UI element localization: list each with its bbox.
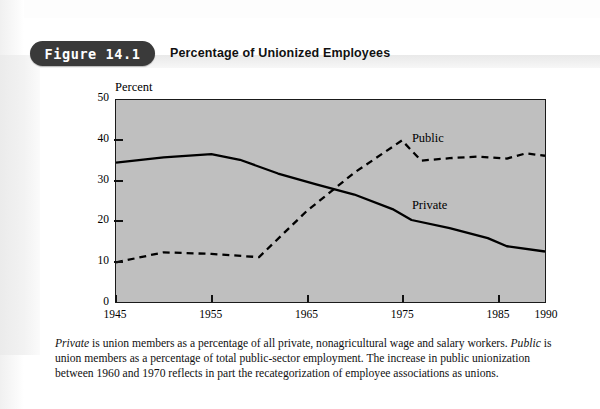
series-label-private: Private bbox=[412, 198, 447, 213]
x-tick-label: 1975 bbox=[382, 308, 422, 320]
y-axis-title: Percent bbox=[115, 80, 152, 95]
x-tick-label: 1985 bbox=[478, 308, 518, 320]
plot-area bbox=[115, 99, 546, 303]
y-tick-label: 50 bbox=[85, 91, 109, 103]
x-tick-mark bbox=[402, 295, 404, 302]
x-tick-label: 1990 bbox=[526, 308, 566, 320]
y-tick-mark bbox=[114, 180, 123, 182]
figure-header: Figure 14.1 Percentage of Unionized Empl… bbox=[0, 18, 600, 55]
y-tick-mark bbox=[114, 261, 123, 263]
y-tick-label: 0 bbox=[85, 295, 109, 307]
plot-svg bbox=[116, 100, 545, 302]
x-tick-mark bbox=[211, 295, 213, 302]
caption-text-1: is union members as a percentage of all … bbox=[89, 337, 510, 350]
series-label-public: Public bbox=[412, 131, 444, 146]
figure-caption: Private is union members as a percentage… bbox=[55, 336, 555, 382]
y-tick-label: 20 bbox=[85, 213, 109, 225]
figure-title: Percentage of Unionized Employees bbox=[170, 46, 390, 60]
x-tick-label: 1945 bbox=[95, 308, 135, 320]
figure-page: Figure 14.1 Percentage of Unionized Empl… bbox=[0, 0, 600, 409]
caption-term-public: Public bbox=[511, 337, 541, 350]
x-tick-label: 1965 bbox=[287, 308, 327, 320]
series-line-private bbox=[116, 154, 545, 251]
x-tick-mark bbox=[115, 295, 117, 302]
figure-left-shadow-band bbox=[0, 55, 40, 355]
figure-number-label: Figure 14.1 bbox=[44, 46, 140, 62]
series-line-public bbox=[116, 140, 545, 262]
y-tick-label: 10 bbox=[85, 254, 109, 266]
x-tick-mark bbox=[498, 295, 500, 302]
caption-term-private: Private bbox=[55, 337, 89, 350]
x-tick-mark bbox=[307, 295, 309, 302]
x-tick-label: 1955 bbox=[191, 308, 231, 320]
y-tick-label: 40 bbox=[85, 132, 109, 144]
y-tick-label: 30 bbox=[85, 173, 109, 185]
page-top-band bbox=[0, 0, 600, 18]
figure-number-badge: Figure 14.1 bbox=[30, 41, 155, 66]
chart: Percent 01020304050 19451955196519751985… bbox=[85, 80, 555, 325]
y-tick-mark bbox=[114, 139, 123, 141]
y-tick-mark bbox=[114, 220, 123, 222]
